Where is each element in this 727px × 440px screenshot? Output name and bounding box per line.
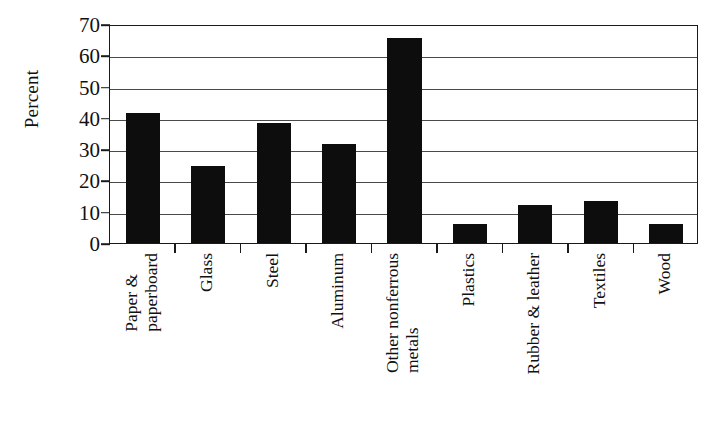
y-tick-mark bbox=[101, 24, 110, 26]
x-category-label: Paper &paperboard bbox=[109, 253, 174, 433]
x-category-label-text: Textiles bbox=[590, 253, 610, 308]
x-category-label-line: Glass bbox=[197, 253, 217, 292]
x-category-label: Other nonferrousmetals bbox=[371, 253, 436, 433]
x-category-label-line: Aluminum bbox=[328, 253, 348, 329]
x-tick-mark bbox=[305, 244, 307, 253]
y-tick-label: 30 bbox=[52, 140, 100, 161]
bar bbox=[453, 224, 487, 243]
x-category-label-line: Paper & bbox=[122, 253, 142, 332]
x-axis-category-labels: Paper &paperboardGlassSteelAluminumOther… bbox=[109, 253, 698, 433]
x-tick-mark bbox=[436, 244, 438, 253]
x-category-label-text: Wood bbox=[655, 253, 675, 294]
bar bbox=[649, 224, 683, 243]
bar bbox=[126, 113, 160, 243]
x-category-label: Rubber & leather bbox=[502, 253, 567, 433]
x-tick-mark bbox=[371, 244, 373, 253]
x-tick-mark bbox=[174, 244, 176, 253]
y-tick-mark bbox=[101, 243, 110, 245]
y-tick-label: 10 bbox=[52, 202, 100, 223]
x-category-label-text: Other nonferrousmetals bbox=[384, 253, 423, 373]
y-tick-label: 20 bbox=[52, 171, 100, 192]
y-axis-tick-labels: 706050403020100 bbox=[52, 25, 100, 244]
x-category-label: Glass bbox=[174, 253, 239, 433]
y-tick-label: 70 bbox=[52, 15, 100, 36]
x-tick-mark bbox=[240, 244, 242, 253]
plot-area bbox=[109, 25, 698, 244]
bar bbox=[387, 38, 421, 243]
y-tick-label: 60 bbox=[52, 46, 100, 67]
x-category-label-line: Rubber & leather bbox=[525, 253, 545, 374]
y-axis-title: Percent bbox=[21, 49, 43, 149]
x-category-label-text: Paper &paperboard bbox=[122, 253, 161, 332]
x-category-label-text: Steel bbox=[263, 253, 283, 288]
x-category-label-line: Textiles bbox=[590, 253, 610, 308]
x-category-label-line: Steel bbox=[263, 253, 283, 288]
x-category-label-text: Plastics bbox=[459, 253, 479, 306]
bar bbox=[257, 123, 291, 243]
x-category-label-text: Glass bbox=[197, 253, 217, 292]
x-category-label: Wood bbox=[633, 253, 698, 433]
y-tick-mark bbox=[101, 181, 110, 183]
bar-chart-figure: Percent 706050403020100 Paper &paperboar… bbox=[0, 0, 727, 440]
y-tick-mark bbox=[101, 87, 110, 89]
x-category-label-line: Plastics bbox=[459, 253, 479, 306]
x-category-label-text: Rubber & leather bbox=[525, 253, 545, 374]
x-category-label-text: Aluminum bbox=[328, 253, 348, 329]
bar bbox=[518, 205, 552, 243]
x-category-label-line: metals bbox=[403, 253, 423, 373]
x-tick-mark bbox=[567, 244, 569, 253]
y-tick-mark bbox=[101, 55, 110, 57]
bar bbox=[584, 201, 618, 243]
bar bbox=[322, 144, 356, 243]
y-tick-label: 40 bbox=[52, 108, 100, 129]
y-tick-label: 0 bbox=[52, 234, 100, 255]
x-category-label: Steel bbox=[240, 253, 305, 433]
x-category-label: Plastics bbox=[436, 253, 501, 433]
x-tick-mark bbox=[502, 244, 504, 253]
x-category-label: Textiles bbox=[567, 253, 632, 433]
x-category-label: Aluminum bbox=[305, 253, 370, 433]
y-tick-mark bbox=[101, 118, 110, 120]
bar bbox=[191, 166, 225, 243]
x-category-label-line: Other nonferrous bbox=[384, 253, 404, 373]
y-tick-label: 50 bbox=[52, 77, 100, 98]
x-tick-mark bbox=[633, 244, 635, 253]
y-tick-mark bbox=[101, 149, 110, 151]
x-category-label-line: paperboard bbox=[142, 253, 162, 332]
y-tick-mark bbox=[101, 212, 110, 214]
x-category-label-line: Wood bbox=[655, 253, 675, 294]
